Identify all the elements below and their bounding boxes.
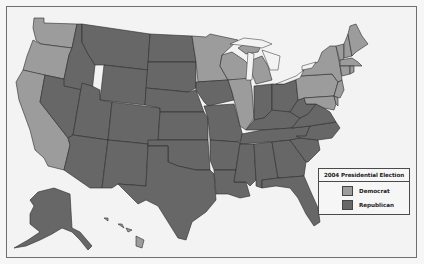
state-alaska[interactable]	[14, 188, 92, 250]
democrat-swatch	[342, 186, 353, 196]
state-south-dakota[interactable]	[146, 62, 196, 92]
state-iowa[interactable]	[196, 80, 234, 106]
legend-item-republican: Republican	[342, 199, 409, 210]
state-connecticut[interactable]	[340, 66, 350, 76]
legend-item-democrat: Democrat	[342, 185, 409, 196]
legend-label-democrat: Democrat	[359, 188, 390, 194]
state-north-dakota[interactable]	[148, 34, 196, 62]
state-arizona[interactable]	[64, 135, 108, 188]
state-wyoming[interactable]	[100, 65, 148, 105]
map-legend: 2004 Presidential Election Democrat Repu…	[318, 168, 410, 215]
state-rhode-island[interactable]	[350, 66, 354, 74]
state-massachusetts[interactable]	[340, 58, 362, 66]
state-kansas[interactable]	[158, 112, 208, 140]
state-florida[interactable]	[262, 176, 320, 226]
legend-title: 2004 Presidential Election	[319, 169, 409, 182]
state-arkansas[interactable]	[210, 140, 240, 170]
state-new-mexico[interactable]	[102, 140, 148, 188]
state-colorado[interactable]	[108, 102, 160, 145]
republican-swatch	[342, 200, 353, 210]
state-hawaii[interactable]	[104, 218, 144, 248]
state-maine[interactable]	[348, 24, 368, 56]
us-election-map	[0, 0, 424, 264]
legend-label-republican: Republican	[359, 202, 394, 208]
